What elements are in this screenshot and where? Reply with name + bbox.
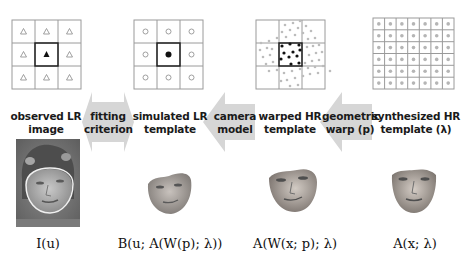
center-filled-circle-icon bbox=[166, 52, 172, 58]
observed-lr-image-label: observed LR image bbox=[0, 110, 92, 136]
observed-face-photo bbox=[16, 139, 80, 227]
camera-model-label: camera model bbox=[213, 110, 257, 136]
simulated-lr-template-label: simulated LR template bbox=[130, 110, 210, 136]
observed-lr-grid bbox=[11, 19, 83, 91]
warped-face-template bbox=[267, 166, 319, 214]
warped-hr-grid bbox=[255, 19, 335, 91]
synthesized-hr-grid bbox=[372, 17, 456, 91]
warped-hr-template-label: warped HR template bbox=[255, 110, 325, 136]
center-dark-dots bbox=[279, 42, 301, 65]
formula-synthesized: A(x; λ) bbox=[375, 236, 455, 251]
simulated-face-template bbox=[145, 170, 195, 216]
formula-simulated: B(u; A(W(p); λ)) bbox=[115, 236, 225, 251]
formula-warped: A(W(x; p); λ) bbox=[245, 236, 345, 251]
synthesized-hr-template-label: synthesized HR template (λ) bbox=[370, 110, 462, 136]
simulated-lr-grid bbox=[133, 19, 205, 91]
center-filled-triangle-icon bbox=[44, 51, 50, 57]
formula-observed: I(u) bbox=[10, 236, 86, 251]
synthesized-face-template bbox=[390, 167, 438, 215]
